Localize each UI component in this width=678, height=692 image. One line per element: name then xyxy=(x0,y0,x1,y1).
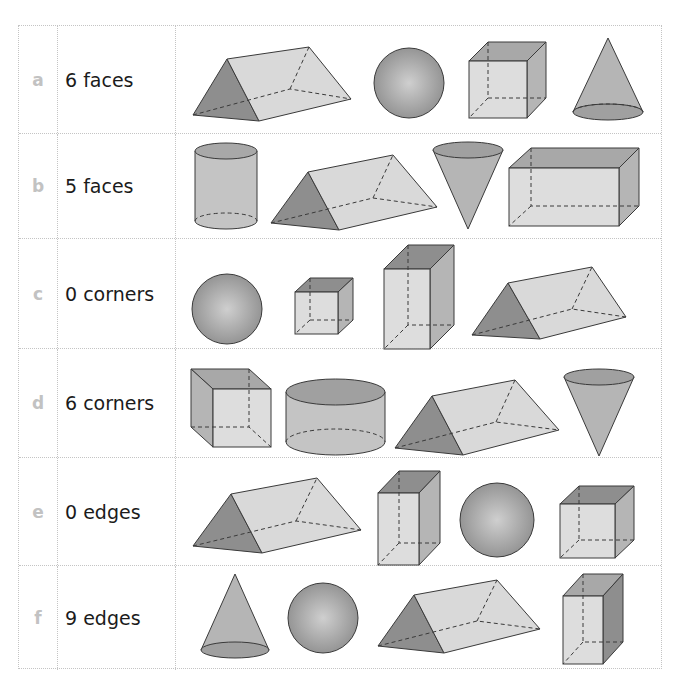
table-row: c 0 corners xyxy=(19,239,661,349)
table-row: d 6 corners xyxy=(19,349,661,458)
cone-icon[interactable] xyxy=(199,574,273,664)
property-label: 9 edges xyxy=(57,566,176,670)
cone-icon[interactable] xyxy=(571,38,647,124)
cylinder-icon[interactable] xyxy=(194,142,260,230)
triangular-prism-icon[interactable] xyxy=(472,267,628,343)
shape-options xyxy=(176,458,661,565)
triangular-prism-icon[interactable] xyxy=(271,155,439,233)
inverted-cone-icon[interactable] xyxy=(431,142,507,230)
row-letter: f xyxy=(19,566,58,670)
row-letter: c xyxy=(19,239,58,348)
row-letter: d xyxy=(19,349,58,457)
table-row: a 6 faces xyxy=(19,26,661,134)
triangular-prism-icon[interactable] xyxy=(378,580,542,656)
shape-property-table: a 6 faces b 5 faces xyxy=(18,25,662,669)
triangular-prism-icon[interactable] xyxy=(193,49,353,124)
shape-options xyxy=(176,134,661,238)
row-letter: e xyxy=(19,458,58,565)
cube-icon[interactable] xyxy=(191,369,273,449)
row-letter: a xyxy=(19,26,58,133)
sphere-icon[interactable] xyxy=(373,47,445,119)
shape-options xyxy=(176,349,661,457)
tall-cuboid-icon[interactable] xyxy=(563,574,625,666)
triangular-prism-icon[interactable] xyxy=(193,478,363,556)
shape-options xyxy=(176,239,661,348)
property-label: 6 faces xyxy=(57,26,176,133)
short-cylinder-icon[interactable] xyxy=(285,377,387,457)
tall-cuboid-icon[interactable] xyxy=(378,471,442,567)
cube-icon[interactable] xyxy=(560,486,636,560)
table-row: b 5 faces xyxy=(19,134,661,239)
property-label: 6 corners xyxy=(57,349,176,457)
shape-options xyxy=(176,566,661,670)
cuboid-icon[interactable] xyxy=(509,148,643,228)
sphere-icon[interactable] xyxy=(191,272,263,346)
shape-options xyxy=(176,26,661,133)
property-label: 5 faces xyxy=(57,134,176,238)
cube-icon[interactable] xyxy=(295,278,355,336)
row-letter: b xyxy=(19,134,58,238)
sphere-icon[interactable] xyxy=(459,482,535,560)
sphere-icon[interactable] xyxy=(287,582,361,656)
tall-cuboid-icon[interactable] xyxy=(384,245,456,351)
triangular-prism-icon[interactable] xyxy=(395,380,561,458)
property-label: 0 corners xyxy=(57,239,176,348)
table-row: f 9 edges xyxy=(19,566,661,670)
inverted-cone-icon[interactable] xyxy=(562,369,638,457)
cube-icon[interactable] xyxy=(469,42,549,122)
property-label: 0 edges xyxy=(57,458,176,565)
table-row: e 0 edges xyxy=(19,458,661,566)
